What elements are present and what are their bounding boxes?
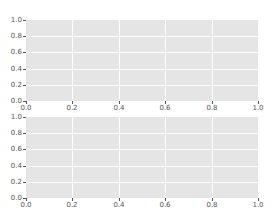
y-tick-label: 0.2: [11, 82, 22, 89]
x-tick-label: 0.4: [113, 105, 124, 112]
bottom-axes-plot-area: [26, 117, 258, 198]
x-tick-label: 0.0: [20, 202, 31, 209]
y-tick-label: 0.4: [11, 163, 22, 170]
horizontal-gridline: [26, 85, 258, 86]
x-tick-label: 0.6: [159, 202, 170, 209]
vertical-gridline: [212, 117, 213, 198]
y-tick-label: 0.6: [11, 49, 22, 56]
top-axes-plot-area: [26, 20, 258, 101]
y-tick-label: 0.8: [11, 130, 22, 137]
vertical-gridline: [72, 20, 73, 101]
x-tick-label: 0.2: [66, 105, 77, 112]
horizontal-gridline: [26, 182, 258, 183]
horizontal-gridline: [26, 36, 258, 37]
y-tick-label: 0.4: [11, 66, 22, 73]
x-tick-label: 1.0: [252, 105, 263, 112]
x-tick-label: 0.0: [20, 105, 31, 112]
horizontal-gridline: [26, 149, 258, 150]
y-tick-label: 1.0: [11, 114, 22, 121]
x-tick-label: 1.0: [252, 202, 263, 209]
x-tick-label: 0.8: [206, 202, 217, 209]
vertical-gridline: [72, 117, 73, 198]
x-tick-label: 0.8: [206, 105, 217, 112]
horizontal-gridline: [26, 166, 258, 167]
vertical-gridline: [165, 20, 166, 101]
horizontal-gridline: [26, 69, 258, 70]
y-tick-label: 0.8: [11, 33, 22, 40]
y-tick-label: 0.6: [11, 146, 22, 153]
y-tick-label: 1.0: [11, 17, 22, 24]
x-tick-label: 0.6: [159, 105, 170, 112]
x-tick-label: 0.2: [66, 202, 77, 209]
horizontal-gridline: [26, 52, 258, 53]
vertical-gridline: [119, 20, 120, 101]
vertical-gridline: [119, 117, 120, 198]
vertical-gridline: [212, 20, 213, 101]
vertical-gridline: [165, 117, 166, 198]
y-tick-label: 0.2: [11, 179, 22, 186]
horizontal-gridline: [26, 133, 258, 134]
x-tick-label: 0.4: [113, 202, 124, 209]
